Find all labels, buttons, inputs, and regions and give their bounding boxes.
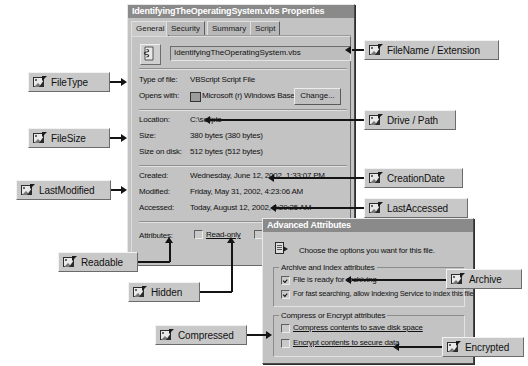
- broken-image-icon: [451, 273, 465, 285]
- broken-image-icon: [133, 286, 147, 298]
- value-type-of-file: VBScript Script File: [190, 75, 255, 84]
- value-size: 380 bytes (380 bytes): [190, 131, 263, 140]
- value-modified: Friday, May 31, 2002, 4:23:06 AM: [190, 187, 303, 196]
- arrow-filetype: [121, 78, 127, 86]
- label-accessed: Accessed:: [139, 203, 174, 212]
- tab-general[interactable]: General: [131, 21, 169, 37]
- connector-drivepath: [210, 119, 364, 121]
- callout-label: Compressed: [178, 330, 234, 341]
- callout-filetype: FileType: [28, 72, 110, 92]
- callout-filename-extension: FileName / Extension: [364, 40, 499, 60]
- connector-encrypted: [399, 346, 442, 348]
- file-options-icon: [275, 242, 290, 255]
- broken-image-icon: [369, 172, 383, 184]
- divider-2: [139, 109, 347, 111]
- archive-checkbox[interactable]: [281, 276, 290, 285]
- broken-image-icon: [21, 184, 35, 196]
- arrow-filesize: [121, 134, 127, 142]
- callout-archive: Archive: [446, 269, 522, 289]
- connector-archive: [352, 279, 446, 281]
- label-modified: Modified:: [139, 187, 170, 196]
- divider-1: [139, 68, 347, 70]
- connector-hidden-h: [200, 291, 232, 293]
- readonly-checkbox[interactable]: [194, 230, 203, 239]
- callout-label: Encrypted: [465, 342, 509, 353]
- advanced-instruction: Choose the options you want for this fil…: [299, 246, 435, 255]
- properties-tabstrip: General Security Summary Script: [131, 21, 351, 36]
- compress-option-label: Compress contents to save disk space: [293, 323, 423, 332]
- callout-label: LastModified: [39, 185, 95, 196]
- callout-label: Readable: [81, 257, 123, 268]
- divider-3: [139, 165, 347, 167]
- indexing-option-label: For fast searching, allow Indexing Servi…: [293, 289, 473, 298]
- callout-label: LastAccessed: [387, 203, 448, 214]
- filename-input[interactable]: IdentifyingTheOperatingSystem.vbs: [170, 46, 351, 61]
- connector-hidden-v: [231, 243, 233, 292]
- tab-summary[interactable]: Summary: [207, 21, 251, 35]
- callout-encrypted: Encrypted: [442, 337, 524, 357]
- callout-label: FileSize: [51, 133, 86, 144]
- encrypt-checkbox[interactable]: [281, 339, 290, 348]
- callout-label: Drive / Path: [387, 115, 438, 126]
- broken-image-icon: [33, 132, 47, 144]
- value-opens-with: Microsoft (r) Windows Based S: [202, 91, 306, 100]
- archive-index-group-title: Archive and Index attributes: [279, 263, 377, 272]
- label-opens-with: Opens with:: [139, 91, 179, 100]
- tab-security[interactable]: Security: [166, 21, 205, 35]
- callout-lastaccessed: LastAccessed: [364, 198, 468, 218]
- label-type-of-file: Type of file:: [139, 75, 177, 84]
- label-location: Location:: [139, 115, 170, 124]
- callout-compressed: Compressed: [155, 325, 247, 345]
- screenshot-root: IdentifyingTheOperatingSystem.vbs Proper…: [0, 0, 528, 366]
- callout-lastmodified: LastModified: [16, 180, 111, 200]
- arrow-readable: [165, 237, 173, 243]
- broken-image-icon: [369, 114, 383, 126]
- properties-dialog-titlebar: IdentifyingTheOperatingSystem.vbs Proper…: [128, 5, 354, 18]
- script-file-icon-glyph: [141, 45, 158, 62]
- broken-image-icon: [160, 329, 174, 341]
- connector-readable-h: [138, 261, 170, 263]
- callout-drive-path: Drive / Path: [364, 110, 456, 130]
- label-size: Size:: [139, 131, 156, 140]
- callout-filesize: FileSize: [28, 128, 110, 148]
- arrow-lastaccessed: [270, 204, 276, 212]
- archive-index-group: [273, 267, 465, 307]
- label-created: Created:: [139, 171, 168, 180]
- callout-label: Archive: [469, 274, 502, 285]
- arrow-compressed: [266, 331, 272, 339]
- callout-hidden: Hidden: [128, 282, 200, 302]
- label-size-on-disk: Size on disk:: [139, 147, 182, 156]
- compress-encrypt-group-title: Compress or Encrypt attributes: [279, 311, 387, 320]
- callout-label: FileType: [51, 77, 88, 88]
- tab-script[interactable]: Script: [250, 21, 280, 35]
- connector-compressed: [247, 334, 267, 336]
- broken-image-icon: [33, 76, 47, 88]
- callout-readable: Readable: [58, 252, 138, 272]
- arrow-archive: [345, 276, 351, 284]
- broken-image-icon: [447, 341, 461, 353]
- connector-filename: [352, 49, 364, 51]
- compress-checkbox[interactable]: [281, 324, 290, 333]
- broken-image-icon: [369, 44, 383, 56]
- callout-label: Hidden: [151, 287, 182, 298]
- arrow-lastmodified: [121, 186, 127, 194]
- connector-readable-v: [169, 243, 171, 262]
- opens-with-app-icon: [190, 92, 201, 102]
- arrow-drivepath: [204, 116, 210, 124]
- advanced-dialog-titlebar: Advanced Attributes: [263, 219, 473, 232]
- readonly-label: Read-only: [206, 230, 241, 239]
- connector-lastaccessed: [276, 207, 364, 209]
- arrow-filename: [345, 46, 351, 54]
- arrow-hidden: [227, 237, 235, 243]
- callout-creationdate: CreationDate: [364, 168, 463, 188]
- arrow-creationdate: [268, 174, 274, 182]
- indexing-checkbox[interactable]: [281, 290, 290, 299]
- script-file-icon: [140, 44, 161, 65]
- change-button[interactable]: Change...: [294, 88, 341, 105]
- callout-label: FileName / Extension: [387, 45, 480, 56]
- encrypt-option-label: Encrypt contents to secure data: [293, 338, 399, 347]
- broken-image-icon: [63, 256, 77, 268]
- compress-encrypt-group: [273, 315, 465, 357]
- callout-label: CreationDate: [387, 173, 445, 184]
- arrow-encrypted: [393, 343, 399, 351]
